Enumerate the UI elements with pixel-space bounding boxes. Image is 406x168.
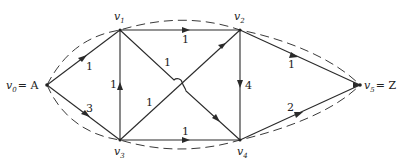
node-v4 xyxy=(239,139,242,142)
arrow-v2-v4-icon xyxy=(237,80,243,88)
weight-v3-v2: 1 xyxy=(146,96,153,109)
arrow-v3-v1-icon xyxy=(117,82,123,90)
node-v3 xyxy=(119,139,122,142)
label-v3: v3 xyxy=(114,145,125,160)
weight-v0-v3: 3 xyxy=(86,102,93,115)
node-v2 xyxy=(239,29,242,32)
weight-v3-v1: 1 xyxy=(110,78,117,91)
weighted-directed-graph: 1 3 1 1 1 1 4 1 1 2 v0= A v1 v2 v3 v4 v5… xyxy=(0,0,406,168)
node-v5 xyxy=(358,83,362,87)
edge-v2-v5 xyxy=(240,30,360,85)
weight-v4-v5: 2 xyxy=(287,101,294,114)
label-v2: v2 xyxy=(234,10,245,25)
node-v1 xyxy=(119,29,122,32)
weight-v1-v2: 1 xyxy=(182,33,189,46)
label-v0: v0= A xyxy=(6,79,39,94)
weight-v3-v4: 1 xyxy=(182,125,189,138)
weight-v2-v4: 4 xyxy=(245,79,252,92)
dashed-lower-path xyxy=(47,85,360,149)
label-v5: v5= Z xyxy=(364,79,396,94)
weight-v0-v1: 1 xyxy=(86,60,93,73)
node-v0 xyxy=(45,83,49,87)
weight-v1-v4: 1 xyxy=(164,56,171,69)
weight-v2-v5: 1 xyxy=(288,58,295,71)
arrow-v4-v5-icon xyxy=(294,112,303,118)
arrow-v3-v2-icon xyxy=(218,43,226,49)
label-v4: v4 xyxy=(237,145,248,160)
label-v1: v1 xyxy=(114,10,125,25)
